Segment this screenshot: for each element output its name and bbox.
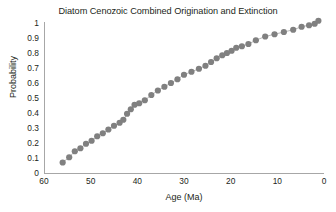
data-point-marker [155,87,161,93]
data-point-marker [94,133,100,139]
y-tick-label: 0.8 [27,48,39,58]
y-tick-label: 0.1 [27,153,39,163]
y-tick-label: 0.5 [27,93,39,103]
x-tick-label: 50 [86,176,96,186]
y-tick-label: 1 [34,18,39,28]
axis-lines [44,22,324,174]
data-point-marker [148,92,154,98]
x-tick-label: 0 [322,176,327,186]
y-tick-labels: 00.10.20.30.40.50.60.70.80.91 [27,18,39,178]
data-point-marker [66,154,72,160]
data-point-marker [188,69,194,75]
data-point-marker [168,80,174,86]
data-point-marker [281,29,287,35]
y-tick-label: 0.4 [27,108,39,118]
data-point-marker [77,145,83,151]
y-tick-label: 0.2 [27,138,39,148]
y-tick-label: 0.7 [27,63,39,73]
series-line-path [63,21,319,163]
data-point-marker [181,72,187,78]
data-point-marker [290,27,296,33]
chart-figure: Diatom Cenozoic Combined Origination and… [0,0,336,212]
y-tick-label: 0.9 [27,33,39,43]
data-point-marker [196,66,202,72]
x-tick-label: 10 [273,176,283,186]
data-point-marker [142,97,148,103]
data-point-marker [105,126,111,132]
series-markers [60,18,322,166]
data-point-marker [306,22,312,28]
data-point-marker [271,31,277,37]
data-point-marker [202,63,208,69]
series-line [63,21,319,163]
y-tick-label: 0.6 [27,78,39,88]
data-point-marker [136,100,142,106]
data-point-marker [120,117,126,123]
data-point-marker [100,130,106,136]
data-point-marker [174,76,180,82]
data-point-marker [161,84,167,90]
data-point-marker [214,55,220,61]
data-point-marker [315,18,321,24]
data-point-marker [233,45,239,51]
x-tick-label: 30 [179,176,189,186]
data-point-marker [83,141,89,147]
data-point-marker [111,123,117,129]
x-tick-labels: 6050403020100 [39,176,326,186]
data-point-marker [239,43,245,49]
data-point-marker [89,138,95,144]
x-tick-label: 60 [39,176,49,186]
data-point-marker [72,148,78,154]
data-point-marker [245,41,251,47]
data-point-marker [60,159,66,165]
x-tick-label: 40 [133,176,143,186]
data-point-marker [253,37,259,43]
data-point-marker [262,33,268,39]
data-point-marker [299,24,305,30]
y-tick-label: 0.3 [27,123,39,133]
x-tick-label: 20 [226,176,236,186]
plot-area: 00.10.20.30.40.50.60.70.80.91 6050403020… [0,0,336,212]
data-point-marker [208,59,214,65]
